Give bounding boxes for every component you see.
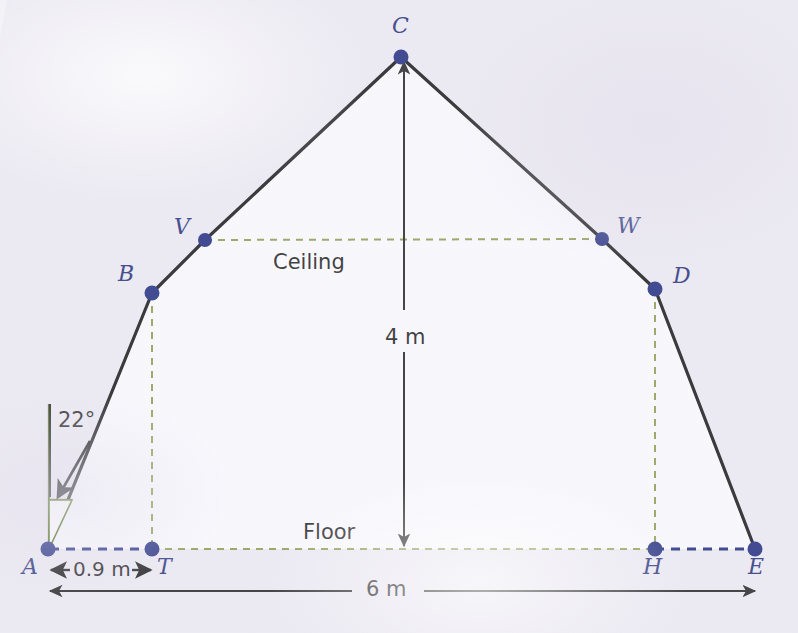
floor-label: Floor (303, 522, 355, 543)
geometry-figure (0, 0, 798, 633)
base-width-dimension-label: 6 m (366, 579, 407, 600)
vertex-label-v: V (174, 216, 190, 238)
vertex-label-h: H (643, 556, 662, 578)
roof-interior-fill (48, 57, 755, 549)
vertex-dot-b[interactable] (145, 286, 160, 301)
height-dimension-label: 4 m (385, 327, 426, 348)
vertex-dot-d[interactable] (648, 282, 663, 297)
vertex-label-b: B (118, 263, 134, 285)
diagram-canvas: A B V C W D E T H Ceiling Floor 4 m 0.9 … (0, 0, 798, 633)
vertex-label-c: C (392, 15, 409, 37)
vertex-dot-v[interactable] (198, 233, 212, 247)
vertex-label-d: D (673, 265, 691, 287)
vertex-label-t: T (157, 556, 172, 578)
vertex-dot-a[interactable] (41, 542, 56, 557)
vertex-dot-c[interactable] (394, 50, 409, 65)
inset-dimension-label: 0.9 m (73, 559, 131, 579)
angle-label: 22° (58, 410, 95, 431)
vertex-label-e: E (748, 556, 764, 578)
vertex-label-a: A (22, 556, 38, 578)
ceiling-label: Ceiling (273, 252, 345, 273)
vertex-label-w: W (617, 215, 640, 237)
vertex-dot-w[interactable] (595, 232, 609, 246)
